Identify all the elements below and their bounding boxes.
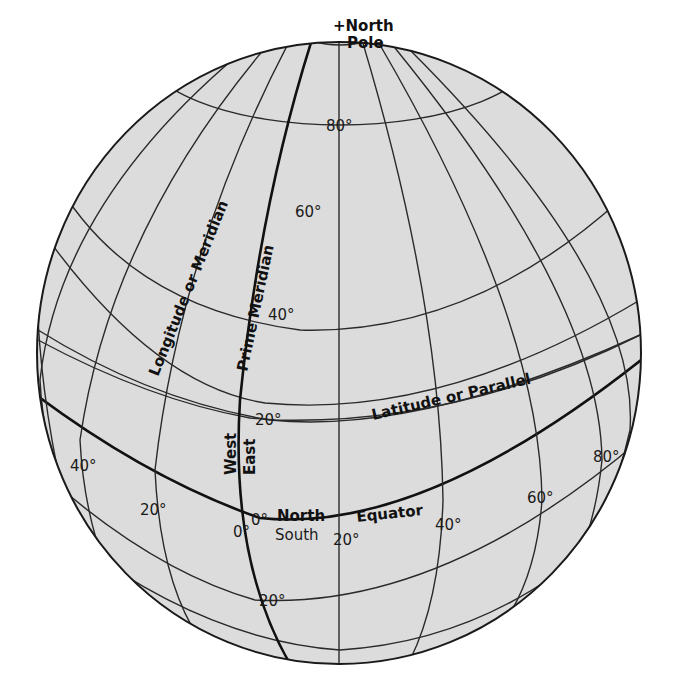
south-label: South [275,526,319,544]
globe-diagram: +North Pole 80° 60° 40° 20° 0° 20° 40° 2… [0,0,674,689]
lat-80-label: 80° [326,117,353,135]
pole-label: Pole [347,34,384,52]
lat-20s-label: 20° [259,592,286,610]
lon-40w-label: 40° [70,457,97,475]
lon-40e-label: 40° [435,516,462,534]
lon-60e-label: 60° [527,489,554,507]
west-label: West [222,433,240,475]
east-label: East [241,439,259,475]
north-pole-label: +North [333,17,394,35]
lon-0-label: 0° [233,523,250,541]
lat-20n-label: 20° [255,411,282,429]
lon-80e-label: 80° [593,448,620,466]
lon-20e-label: 20° [333,531,360,549]
lon-20w-label: 20° [140,501,167,519]
lat-60-label: 60° [295,203,322,221]
north-label: North [277,507,325,525]
lat-40-label: 40° [268,306,295,324]
lat-0-label: 0° [251,511,268,529]
